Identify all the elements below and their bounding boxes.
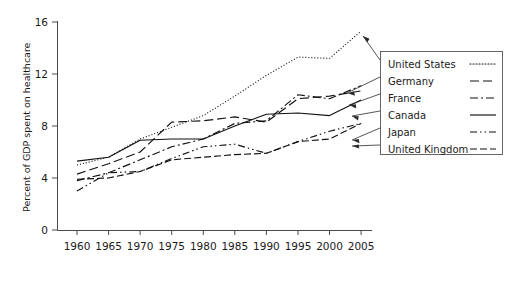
x-tick-label: 1985 — [221, 240, 248, 252]
y-tick-label: 12 — [35, 68, 48, 80]
line-chart: Percent of GDP spent on healthcare 16 12… — [0, 0, 508, 281]
x-tick-label: 1980 — [190, 240, 217, 252]
legend-leader-lines — [347, 36, 380, 149]
x-tick-label: 1960 — [64, 240, 91, 252]
legend-label-united-states: United States — [388, 59, 456, 70]
x-tick-label: 2000 — [316, 240, 343, 252]
x-tick-label: 1995 — [285, 240, 312, 252]
y-tick-label: 16 — [35, 16, 49, 28]
legend-label-germany: Germany — [388, 76, 434, 87]
y-tick-label: 8 — [41, 120, 48, 132]
y-axis-ticks — [52, 22, 58, 230]
x-axis-tick-labels: 1960 1965 1970 1975 1980 1985 1990 1995 … — [64, 240, 375, 252]
x-tick-label: 1970 — [127, 240, 154, 252]
x-tick-label: 1965 — [95, 240, 122, 252]
y-tick-label: 0 — [41, 224, 48, 236]
y-tick-label: 4 — [41, 172, 48, 184]
y-axis-title: Percent of GDP spent on healthcare — [21, 42, 32, 212]
series-line-canada — [77, 100, 361, 161]
x-axis-ticks — [77, 231, 361, 236]
legend-label-france: France — [388, 93, 421, 104]
y-axis-tick-labels: 16 12 8 4 0 — [35, 16, 49, 236]
legend-label-canada: Canada — [388, 110, 426, 121]
series-line-united-states — [77, 31, 361, 165]
chart-container: Percent of GDP spent on healthcare 16 12… — [0, 0, 508, 281]
x-tick-label: 2005 — [348, 240, 375, 252]
series-line-france — [77, 86, 361, 181]
legend-label-united-kingdom: United Kingdom — [388, 144, 468, 155]
x-tick-label: 1975 — [158, 240, 185, 252]
legend-label-japan: Japan — [387, 127, 416, 138]
series-line-japan — [77, 123, 361, 191]
x-tick-label: 1990 — [253, 240, 280, 252]
series-layer — [77, 31, 361, 191]
